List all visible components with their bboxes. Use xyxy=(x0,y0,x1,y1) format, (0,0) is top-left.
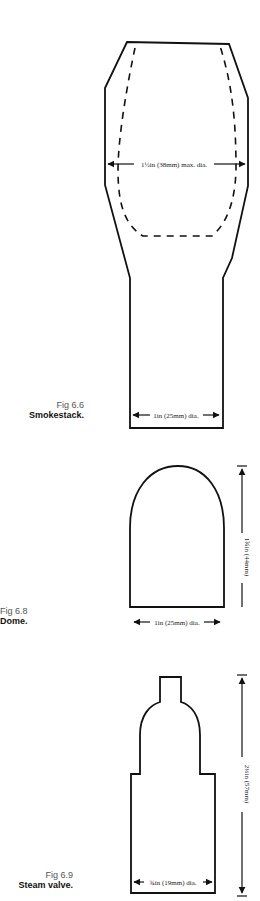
technical-drawing: 1½in (38mm) max. dia. 1in (25mm) dia. 1¾… xyxy=(0,0,260,901)
max-diameter-label: 1½in (38mm) max. dia. xyxy=(141,161,207,169)
caption-fig-6-6: Fig 6.6 Smokestack. xyxy=(29,400,84,421)
figure-number: Fig 6.9 xyxy=(18,870,73,880)
figure-title: Smokestack. xyxy=(29,410,84,420)
dome-drawing: 1¾in (44mm) 1in (25mm) dia. xyxy=(130,466,251,627)
dome-height-label: 1¾in (44mm) xyxy=(243,538,251,577)
figure-title: Steam valve. xyxy=(18,880,73,890)
caption-fig-6-9: Fig 6.9 Steam valve. xyxy=(18,870,73,891)
dome-outline xyxy=(130,466,224,607)
valve-base-diameter-label: ¾in (19mm) dia. xyxy=(149,879,196,887)
figure-number: Fig 6.8 xyxy=(0,606,28,616)
figure-title: Dome. xyxy=(0,616,28,626)
dome-base-diameter-label: 1in (25mm) dia. xyxy=(154,619,200,627)
stack-base-diameter-label: 1in (25mm) dia. xyxy=(153,412,199,420)
steam-valve-drawing: 2¼in (57mm) ¾in (19mm) dia. xyxy=(131,675,251,896)
valve-height-label: 2¼in (57mm) xyxy=(243,765,251,804)
smokestack-inner-dashed xyxy=(118,46,236,236)
steam-valve-outline xyxy=(131,677,215,893)
smokestack-outline xyxy=(105,42,248,428)
smokestack-drawing: 1½in (38mm) max. dia. 1in (25mm) dia. xyxy=(105,42,248,428)
figure-number: Fig 6.6 xyxy=(29,400,84,410)
caption-fig-6-8: Fig 6.8 Dome. xyxy=(0,606,28,627)
